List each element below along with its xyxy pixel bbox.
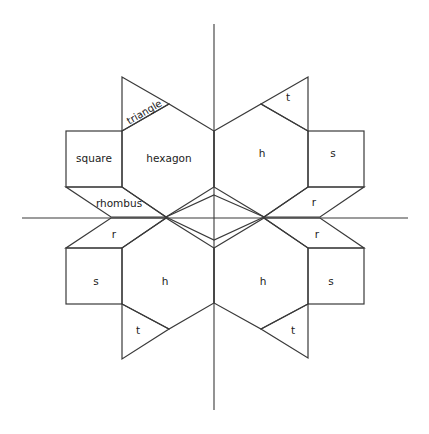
label-s-top-right: s <box>330 147 335 159</box>
label-t-bottom-left: t <box>136 324 140 336</box>
hexagon-top-right <box>214 104 308 217</box>
label-square: square <box>76 152 112 164</box>
pattern-block-diagram: triangle square hexagon rhombus t h s r … <box>0 0 429 434</box>
label-hexagon: hexagon <box>146 152 191 164</box>
label-r-bottom-left: r <box>112 228 117 240</box>
label-s-bottom-right: s <box>328 275 333 287</box>
label-t-bottom-right: t <box>291 324 295 336</box>
label-r-bottom-right: r <box>315 228 320 240</box>
hexagon-bottom-left <box>122 218 214 329</box>
label-h-bottom-left: h <box>162 275 169 287</box>
square-top-right <box>308 131 364 187</box>
label-h-bottom-right: h <box>260 275 267 287</box>
label-s-bottom-left: s <box>93 275 98 287</box>
triangle-bottom-right <box>261 304 308 358</box>
label-t-top-right: t <box>286 91 290 103</box>
label-rhombus: rhombus <box>96 197 142 209</box>
label-h-top-right: h <box>259 147 266 159</box>
triangle-top-right <box>261 77 308 131</box>
label-r-top-right: r <box>312 196 317 208</box>
triangle-bottom-left <box>122 304 169 359</box>
label-triangle: triangle <box>125 98 164 127</box>
square-bottom-right <box>308 248 364 304</box>
hexagon-bottom-right <box>214 218 308 329</box>
